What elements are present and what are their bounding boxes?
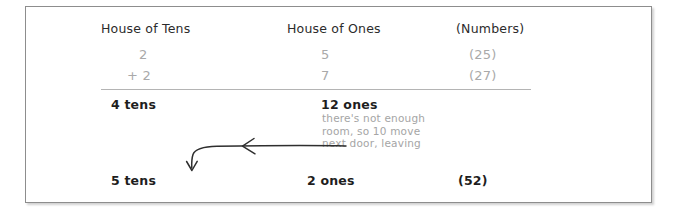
sum-rule-line	[101, 89, 531, 90]
sum-before-tens: 4 tens	[111, 97, 156, 112]
regroup-arrow-icon	[147, 127, 347, 173]
figure-page: House of Tens House of Ones (Numbers) 2 …	[0, 0, 677, 214]
column-header-house-of-ones: House of Ones	[287, 21, 381, 36]
addend-1-tens: 2	[139, 47, 147, 62]
addend-2-number: (27)	[469, 68, 497, 83]
sum-after-number: (52)	[458, 173, 488, 188]
regroup-arrow	[147, 127, 347, 173]
figure-frame: House of Tens House of Ones (Numbers) 2 …	[25, 6, 652, 203]
addend-2-ones: 7	[321, 68, 329, 83]
sum-after-ones: 2 ones	[307, 173, 355, 188]
column-header-house-of-tens: House of Tens	[101, 21, 190, 36]
column-header-numbers: (Numbers)	[456, 21, 524, 36]
addend-1-number: (25)	[469, 47, 497, 62]
addend-1-ones: 5	[321, 47, 329, 62]
sum-before-ones: 12 ones	[321, 97, 378, 112]
sum-after-tens: 5 tens	[111, 173, 156, 188]
addend-2-tens: + 2	[127, 68, 151, 83]
